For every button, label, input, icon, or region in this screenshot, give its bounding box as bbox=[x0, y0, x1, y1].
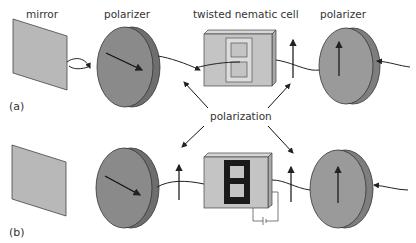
cell-label: twisted nematic cell bbox=[193, 8, 299, 20]
polarization-label: polarization bbox=[210, 110, 272, 122]
lcd-polarization-diagram: mirror polarizer twisted nematic cell po… bbox=[0, 0, 416, 243]
polarizer-right-a bbox=[319, 28, 373, 104]
polarizer-left-a bbox=[97, 27, 153, 107]
mirror-a bbox=[13, 19, 67, 90]
polarizer-left-label: polarizer bbox=[104, 8, 151, 20]
incoming-light-a bbox=[377, 61, 410, 67]
panel-b-label: (b) bbox=[9, 226, 25, 239]
twisted-nematic-cell-a bbox=[204, 30, 276, 86]
twisted-nematic-cell-b bbox=[204, 153, 272, 208]
polarizer-left-b bbox=[96, 148, 152, 228]
panel-b bbox=[12, 145, 408, 228]
seven-segment-outline bbox=[226, 38, 252, 82]
panel-a-label: (a) bbox=[9, 100, 24, 113]
seven-segment-digit-8-dark bbox=[224, 160, 250, 204]
panel-a bbox=[13, 19, 410, 107]
mirror-b bbox=[12, 145, 66, 216]
mirror-label: mirror bbox=[26, 8, 59, 20]
incoming-light-b bbox=[374, 185, 408, 190]
polarizer-right-label: polarizer bbox=[320, 8, 367, 20]
